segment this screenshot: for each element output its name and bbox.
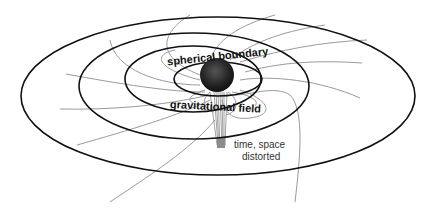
label-time-space-line2: distorted [242, 151, 280, 162]
stem-base [217, 138, 225, 148]
gravity-diagram: spherical boundary gravitational field t… [0, 0, 439, 214]
ring-second [79, 33, 309, 139]
field-line [110, 120, 215, 202]
label-time-space-line1: time, space [234, 139, 286, 150]
